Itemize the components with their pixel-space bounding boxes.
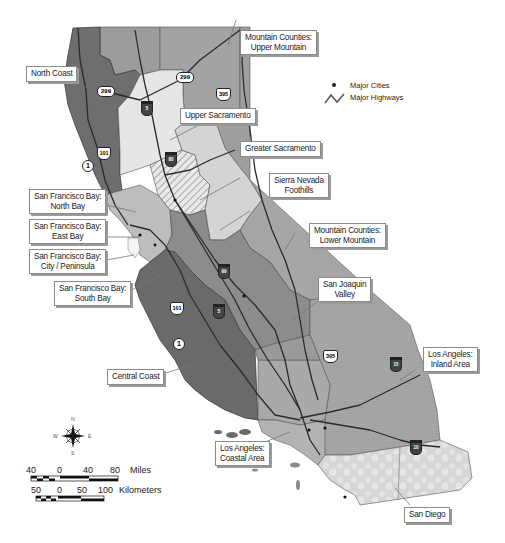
shield-number: 101 bbox=[99, 150, 108, 156]
legend-highways-label: Major Highways bbox=[350, 92, 403, 104]
shield-number: 1 bbox=[177, 340, 181, 347]
shield-us-101-north: 101 bbox=[97, 147, 111, 160]
label-line: Valley bbox=[323, 290, 366, 300]
label-line: North Coast bbox=[31, 69, 72, 79]
shield-i-80: 80 bbox=[165, 152, 177, 167]
shield-number: 10 bbox=[413, 445, 418, 450]
legend-row-highways: Major Highways bbox=[324, 92, 403, 104]
shield-ca-1-north: 1 bbox=[82, 160, 94, 172]
label-greater-sacramento: Greater Sacramento bbox=[240, 141, 321, 157]
label-line: East Bay bbox=[34, 232, 101, 242]
label-line: Coastal Area bbox=[220, 454, 265, 464]
label-line: Sierra Nevada bbox=[274, 176, 324, 186]
label-line: San Francisco Bay: bbox=[34, 222, 101, 232]
scale-miles-tick-3: 80 bbox=[110, 465, 120, 475]
highway-line-icon bbox=[324, 92, 346, 104]
shield-number: 5 bbox=[218, 308, 221, 314]
shield-i-5-north: 5 bbox=[141, 101, 153, 116]
shield-i-10: 10 bbox=[410, 440, 422, 455]
compass-north: N bbox=[71, 416, 75, 422]
shield-number: 395 bbox=[219, 91, 228, 97]
label-line: Greater Sacramento bbox=[245, 144, 316, 154]
compass-east: E bbox=[88, 433, 91, 439]
label-line: Los Angeles: bbox=[220, 444, 265, 454]
label-line: Upper Sacramento bbox=[185, 111, 251, 121]
compass-west: W bbox=[53, 433, 58, 439]
label-sf-east-bay: San Francisco Bay: East Bay bbox=[29, 219, 106, 244]
scale-miles-unit: Miles bbox=[130, 465, 151, 475]
label-la-coastal: Los Angeles: Coastal Area bbox=[215, 441, 270, 466]
compass-rose bbox=[61, 424, 85, 448]
scale-bar-miles[interactable] bbox=[31, 476, 118, 481]
label-line: North Bay bbox=[34, 202, 101, 212]
label-line: San Francisco Bay: bbox=[59, 284, 126, 294]
label-san-diego: San Diego bbox=[404, 507, 450, 523]
shield-number: 299 bbox=[180, 74, 190, 80]
label-line: Mountain Counties: bbox=[314, 226, 381, 236]
shield-number: 80 bbox=[168, 157, 173, 162]
shield-i-99: 99 bbox=[218, 264, 230, 279]
shield-i-15: 15 bbox=[390, 357, 402, 372]
shield-ca-299-east: 299 bbox=[176, 72, 194, 83]
label-line: Foothills bbox=[274, 186, 324, 196]
scale-km-tick-0: 50 bbox=[31, 485, 41, 495]
label-la-inland: Los Angeles: Inland Area bbox=[423, 347, 478, 372]
label-line: San Diego bbox=[409, 510, 445, 520]
shield-number: 299 bbox=[101, 88, 111, 94]
scale-km-tick-2: 50 bbox=[77, 485, 87, 495]
shield-number: 99 bbox=[221, 269, 226, 274]
map-legend: Major Cities Major Highways bbox=[324, 80, 403, 104]
label-line: Mountain Counties: bbox=[245, 33, 312, 43]
label-central-coast: Central Coast bbox=[107, 369, 164, 385]
label-line: Inland Area bbox=[428, 360, 473, 370]
label-sf-city-peninsula: San Francisco Bay: City / Peninsula bbox=[29, 249, 106, 274]
label-upper-sacramento: Upper Sacramento bbox=[180, 108, 256, 124]
shield-us-395-south: 395 bbox=[323, 350, 338, 363]
label-line: Lower Mountain bbox=[314, 236, 381, 246]
label-line: San Francisco Bay: bbox=[34, 252, 101, 262]
shield-us-395-north: 395 bbox=[216, 88, 231, 101]
compass-south: S bbox=[71, 450, 74, 456]
city-dot-icon bbox=[324, 80, 346, 92]
label-line: South Bay bbox=[59, 294, 126, 304]
scale-miles-tick-1: 0 bbox=[57, 465, 62, 475]
shield-i-5-south: 5 bbox=[213, 304, 225, 319]
label-line: Upper Mountain bbox=[245, 43, 312, 53]
label-line: San Joaquin bbox=[323, 280, 366, 290]
legend-cities-label: Major Cities bbox=[350, 80, 390, 92]
label-north-coast: North Coast bbox=[26, 66, 77, 82]
scale-km-tick-1: 0 bbox=[57, 485, 62, 495]
label-san-joaquin-valley: San Joaquin Valley bbox=[318, 277, 371, 302]
scale-km-unit: Kilometers bbox=[119, 485, 162, 495]
scale-bar-km[interactable] bbox=[36, 496, 104, 501]
shield-number: 101 bbox=[172, 305, 181, 311]
scale-miles-tick-2: 40 bbox=[83, 465, 93, 475]
label-sierra-nevada-foothills: Sierra Nevada Foothills bbox=[269, 173, 329, 198]
shield-number: 395 bbox=[326, 353, 335, 359]
label-line: Central Coast bbox=[112, 372, 159, 382]
label-sf-south-bay: San Francisco Bay: South Bay bbox=[54, 281, 131, 306]
label-line: City / Peninsula bbox=[34, 262, 101, 272]
shield-us-101-south: 101 bbox=[170, 302, 184, 315]
label-line: San Francisco Bay: bbox=[34, 192, 101, 202]
shield-ca-299-west: 299 bbox=[97, 86, 115, 97]
scale-miles-tick-0: 40 bbox=[26, 465, 36, 475]
shield-number: 5 bbox=[146, 105, 149, 111]
label-line: Los Angeles: bbox=[428, 350, 473, 360]
shield-number: 15 bbox=[393, 362, 398, 367]
label-lower-mountain: Mountain Counties: Lower Mountain bbox=[309, 223, 386, 248]
shield-number: 1 bbox=[86, 162, 90, 169]
scale-km-tick-3: 100 bbox=[98, 485, 113, 495]
shield-ca-1-south: 1 bbox=[173, 338, 185, 350]
label-sf-north-bay: San Francisco Bay: North Bay bbox=[29, 189, 106, 214]
label-upper-mountain: Mountain Counties: Upper Mountain bbox=[240, 30, 317, 55]
legend-row-cities: Major Cities bbox=[324, 80, 403, 92]
